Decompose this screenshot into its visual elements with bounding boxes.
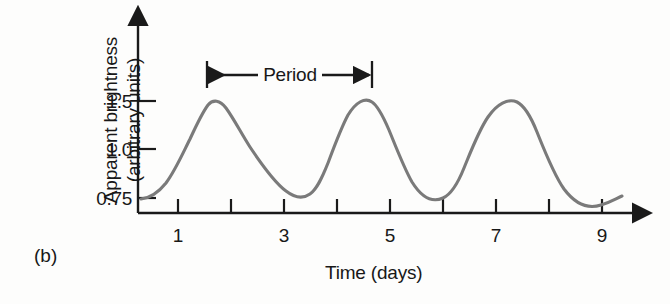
light-curve-path bbox=[141, 100, 622, 206]
x-axis-title: Time (days) bbox=[325, 262, 422, 284]
y-tick-label-0-75: 0.75 bbox=[52, 188, 132, 210]
figure-panel: Apparent brightness (arbitrary units) 1.… bbox=[0, 0, 670, 304]
x-tick-label-5: 5 bbox=[370, 225, 410, 247]
x-tick-label-3: 3 bbox=[264, 225, 304, 247]
x-tick-label-1: 1 bbox=[158, 225, 198, 247]
y-tick-marks bbox=[138, 101, 156, 198]
x-tick-marks bbox=[178, 199, 602, 213]
period-annotation-label: Period bbox=[254, 64, 326, 86]
x-tick-label-9: 9 bbox=[582, 225, 622, 247]
y-tick-label-1-0: 1.0 bbox=[52, 139, 132, 161]
panel-label: (b) bbox=[34, 245, 57, 267]
x-tick-label-7: 7 bbox=[476, 225, 516, 247]
y-tick-label-1-5: 1.5 bbox=[52, 91, 132, 113]
